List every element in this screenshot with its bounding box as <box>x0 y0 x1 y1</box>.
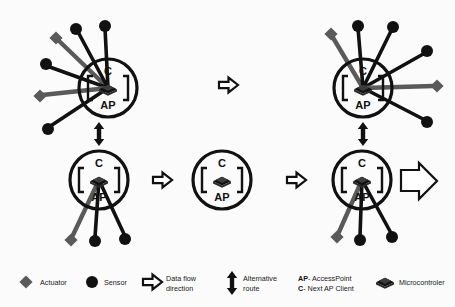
arrow-right-alternative[interactable] <box>358 122 368 146</box>
svg-text:C- Next AP Client: C- Next AP Client <box>298 284 354 293</box>
node-top-left[interactable]: C AP <box>33 20 137 135</box>
node-client-label: C <box>218 157 226 169</box>
sensor-icon <box>70 23 82 35</box>
circle-icon <box>86 276 98 288</box>
network-diagram: C AP C AP <box>0 0 455 307</box>
sensor-icon <box>387 21 399 33</box>
sensor-icon <box>386 231 398 243</box>
arrow-center-to-right[interactable] <box>287 173 306 188</box>
node-bottom-left[interactable]: C AP <box>64 151 131 247</box>
legend-data-flow-label-1: Data flow <box>166 274 197 283</box>
legend: Actuator Sensor Data flow direction Alte… <box>19 271 445 295</box>
actuator-icon <box>330 230 343 243</box>
microcontroller-icon <box>213 177 231 188</box>
legend-alt-route-label-1: Alternative <box>243 274 277 283</box>
node-client-label: C <box>359 65 367 77</box>
sensor-icon <box>421 116 433 128</box>
svg-text:AP- AccessPoint: AP- AccessPoint <box>298 274 352 283</box>
sensor-icon <box>42 123 54 135</box>
legend-sensor-label: Sensor <box>104 278 127 287</box>
legend-ap-abbr: AP <box>298 274 308 283</box>
node-bottom-right[interactable]: C AP <box>330 151 398 246</box>
hollow-arrow-icon <box>143 275 162 290</box>
arrow-top-middle[interactable] <box>219 78 238 93</box>
sensor-icon <box>421 45 433 57</box>
sensor-icon <box>119 233 131 245</box>
legend-alt-route-label-2: route <box>243 284 259 293</box>
sensor-icon <box>89 235 101 247</box>
node-top-left-spokes <box>42 28 108 127</box>
node-top-right[interactable]: C AP <box>324 20 443 128</box>
node-ap-label: AP <box>354 191 369 203</box>
arrow-left-alternative[interactable] <box>94 122 104 146</box>
legend-actuator: Actuator <box>19 275 67 288</box>
arrow-left-to-center[interactable] <box>153 173 172 188</box>
diamond-icon <box>19 275 32 288</box>
legend-data-flow-label-2: direction <box>166 284 193 293</box>
node-ap-label: AP <box>100 99 115 111</box>
legend-microcontroller-label: Microcontroler <box>399 278 445 287</box>
legend-c-desc: - Next AP Client <box>303 284 354 293</box>
microcontroller-icon <box>353 177 371 188</box>
diagram-canvas: C AP C AP <box>0 0 455 307</box>
node-top-right-spokes <box>332 28 434 120</box>
sensor-icon <box>352 20 364 32</box>
sensor-icon <box>354 234 366 246</box>
node-client-label: C <box>104 65 112 77</box>
legend-ap-desc: - AccessPoint <box>308 274 352 283</box>
legend-abbreviations: AP- AccessPoint C- Next AP Client <box>298 274 354 293</box>
node-client-label: C <box>358 157 366 169</box>
legend-microcontroller: Microcontroler <box>376 278 445 289</box>
actuator-icon <box>33 89 46 102</box>
sensor-icon <box>99 20 111 32</box>
node-top-right-peripherals <box>324 20 443 128</box>
node-ap-label: AP <box>355 99 370 111</box>
double-arrow-icon <box>227 271 237 295</box>
node-client-label: C <box>95 157 103 169</box>
legend-data-flow: Data flow direction <box>143 274 197 293</box>
actuator-icon <box>430 79 443 92</box>
node-center[interactable]: C AP <box>193 151 251 209</box>
legend-alternative-route: Alternative route <box>227 271 277 295</box>
node-ap-label: AP <box>214 191 229 203</box>
legend-sensor: Sensor <box>86 276 127 288</box>
legend-actuator-label: Actuator <box>40 278 67 287</box>
arrow-bottom-right-out[interactable] <box>401 163 437 199</box>
microcontroller-icon <box>90 177 108 188</box>
sensor-icon <box>40 58 52 70</box>
chip-icon <box>376 278 394 289</box>
actuator-icon <box>64 233 77 246</box>
node-ap-label: AP <box>91 191 106 203</box>
